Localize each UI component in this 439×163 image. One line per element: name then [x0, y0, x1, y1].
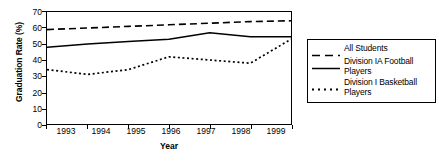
- y-tick-label: 70: [24, 8, 42, 17]
- series-all-students-line: [47, 21, 291, 30]
- x-tick-label: 1998: [224, 127, 258, 136]
- y-tick-label: 30: [24, 72, 42, 81]
- y-tick-label: 60: [24, 24, 42, 33]
- series-football-line: [47, 33, 291, 47]
- y-tick-label: 40: [24, 56, 42, 65]
- series-lines: [47, 12, 291, 124]
- legend-label: All Students: [344, 44, 388, 54]
- x-tick-label: 1995: [119, 127, 153, 136]
- y-tick-label: 10: [24, 105, 42, 114]
- y-tick-label: 20: [24, 89, 42, 98]
- legend-label: Division I Basketball Players: [344, 78, 432, 97]
- legend-label: Division IA Football Players: [344, 57, 432, 76]
- graduation-rate-line-chart: Graduation Rate (%) 70 60 50 40 30 20 10…: [0, 0, 439, 163]
- chart-legend: All Students Division IA Football Player…: [307, 39, 436, 103]
- x-axis-tick-labels: 1993 1994 1995 1996 1997 1998 1999: [46, 127, 292, 139]
- x-tick-label: 1996: [154, 127, 188, 136]
- legend-dashed-line-icon: [312, 46, 340, 55]
- x-tick-label: 1997: [189, 127, 223, 136]
- x-axis-title: Year: [46, 141, 292, 151]
- y-tick-label: 50: [24, 40, 42, 49]
- legend-item-basketball: Division I Basketball Players: [312, 78, 432, 97]
- y-tick-label: 0: [24, 121, 42, 130]
- legend-item-football: Division IA Football Players: [312, 57, 432, 76]
- x-tick-label: 1999: [259, 127, 293, 136]
- legend-dotted-line-icon: [312, 80, 340, 89]
- x-tick-label: 1993: [49, 127, 83, 136]
- y-axis-tick-labels: 70 60 50 40 30 20 10 0: [21, 0, 42, 163]
- plot-area: [46, 11, 292, 125]
- x-tick-label: 1994: [84, 127, 118, 136]
- legend-item-all-students: All Students: [312, 44, 432, 55]
- legend-solid-line-icon: [312, 59, 340, 68]
